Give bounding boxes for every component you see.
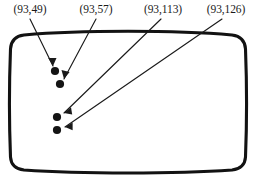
data-point-dot[interactable] (56, 80, 64, 88)
coordinate-label-0: (93,49) (14, 3, 47, 16)
coordinate-label-3: (93,126) (207, 3, 246, 16)
data-point-dot[interactable] (53, 113, 61, 121)
screen-outline-shape (9, 31, 246, 173)
diagram-svg: (93,49) (93,57) (93,113) (93,126) (0, 0, 254, 183)
diagram-canvas: (93,49) (93,57) (93,113) (93,126) (0, 0, 254, 183)
coordinate-label-1: (93,57) (80, 3, 113, 16)
data-point-dot[interactable] (51, 67, 59, 75)
coordinate-label-2: (93,113) (144, 3, 182, 16)
data-point-dot[interactable] (53, 126, 61, 134)
